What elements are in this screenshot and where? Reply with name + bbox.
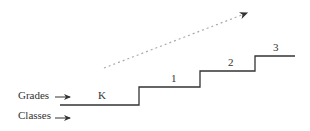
classes-label: Classes <box>18 109 51 121</box>
step-label-k: K <box>98 89 106 101</box>
diagram-svg: K 1 2 3 Grades Classes <box>0 0 310 131</box>
step-label-3: 3 <box>273 41 279 53</box>
step-label-2: 2 <box>228 56 234 68</box>
grades-label: Grades <box>18 89 49 101</box>
staircase-diagram: K 1 2 3 Grades Classes <box>0 0 310 131</box>
staircase-line <box>60 56 295 105</box>
step-label-1: 1 <box>171 72 177 84</box>
growth-dashed-arrow <box>104 13 247 68</box>
